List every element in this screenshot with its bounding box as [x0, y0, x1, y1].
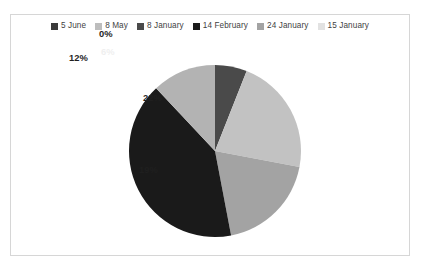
slice-label-zero: 0% [99, 29, 113, 38]
slice-label-nineteen: 19% [139, 165, 158, 174]
slice-label-twelve: 12% [69, 53, 88, 62]
pie-chart-svg [127, 63, 303, 239]
pie-chart-area: 0% 6% 22% 19% 12% [11, 15, 409, 255]
chart-frame: 5 June8 May8 January14 February24 Januar… [10, 14, 410, 256]
slice-label-twentytwo: 22% [143, 93, 162, 102]
slice-label-six: 6% [101, 47, 115, 56]
